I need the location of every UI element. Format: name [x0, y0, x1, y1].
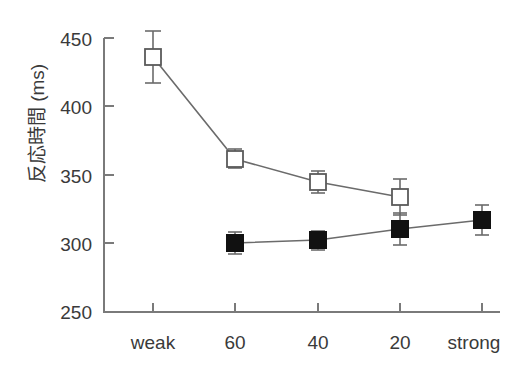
plot-area: [0, 0, 519, 388]
filled-square-markers: [226, 211, 491, 252]
data-point-open-20: [392, 189, 408, 205]
data-point-filled-60: [226, 234, 244, 252]
chart-figure: 反応時間 (ms) 450 400 350 300 250 weak 60 40…: [0, 0, 519, 388]
data-point-open-40: [310, 174, 326, 190]
filled-square-series-line: [235, 220, 482, 243]
open-square-series-line: [153, 57, 400, 197]
data-point-open-weak: [145, 49, 161, 65]
data-point-open-60: [227, 151, 243, 167]
data-point-filled-strong: [473, 211, 491, 229]
data-point-filled-40: [309, 231, 327, 249]
open-square-markers: [145, 49, 408, 205]
open-square-error-bars: [145, 31, 407, 215]
filled-square-error-bars: [228, 205, 489, 254]
data-point-filled-20: [391, 220, 409, 238]
axes: [104, 38, 500, 313]
